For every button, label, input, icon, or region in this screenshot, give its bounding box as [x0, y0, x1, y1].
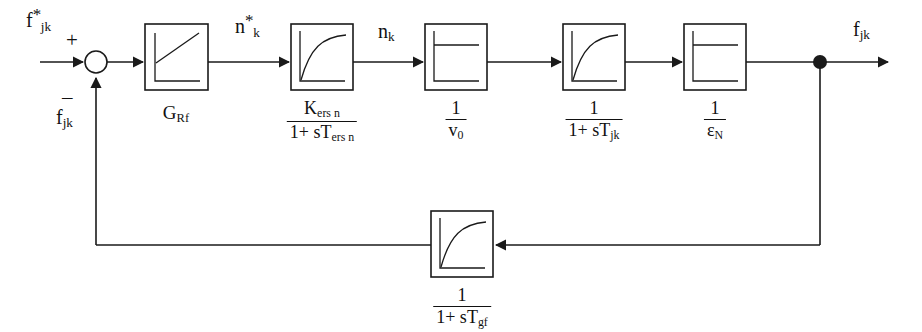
caption-feedback-1-stgf-numerator: 1: [433, 286, 491, 306]
label-feedback-signal: fjk: [56, 107, 73, 130]
caption-inv-1-stjk-numerator: 1: [566, 99, 623, 119]
block-inv-eps-n: [684, 24, 746, 90]
block-feedback-1-stgf: [431, 211, 493, 277]
block-kers-n: [291, 24, 353, 90]
caption-kers-n-denominator: 1+ sTers n: [287, 121, 357, 144]
caption-inv-eps-n-denominator: εN: [704, 119, 726, 142]
block-inv-v0: [425, 24, 487, 90]
label-output-signal: fjk: [853, 19, 870, 42]
summing-junction-circle: [85, 51, 107, 73]
takeoff-node-dot: [813, 55, 827, 69]
caption-inv-eps-n: 1 εN: [704, 99, 726, 142]
summing-plus-sign: +: [66, 30, 78, 51]
caption-inv-v0-denominator: v0: [446, 119, 467, 142]
block-inv-1-stjk: [563, 24, 625, 90]
caption-inv-v0-numerator: 1: [446, 99, 467, 119]
caption-feedback-1-stgf-denominator: 1+ sTgf: [433, 306, 491, 329]
label-intermediate-n-star-k: n*k: [235, 12, 260, 39]
caption-inv-1-stjk: 1 1+ sTjk: [566, 99, 623, 142]
block-diagram-canvas: f*jk + – fjk n*k nk fjk GRf Kers n 1+ sT…: [0, 0, 922, 332]
caption-g-rf: GRf: [163, 102, 189, 126]
label-intermediate-n-k: nk: [378, 21, 395, 44]
caption-feedback-1-stgf: 1 1+ sTgf: [433, 286, 491, 329]
caption-inv-1-stjk-denominator: 1+ sTjk: [566, 119, 623, 142]
caption-kers-n-numerator: Kers n: [287, 99, 357, 121]
block-g-rf: [145, 24, 208, 90]
caption-kers-n: Kers n 1+ sTers n: [287, 99, 357, 144]
caption-inv-eps-n-numerator: 1: [704, 99, 726, 119]
caption-inv-v0: 1 v0: [446, 99, 467, 142]
summing-minus-sign: –: [62, 87, 73, 108]
label-input-reference: f*jk: [26, 6, 51, 33]
diagram-wiring: [0, 0, 922, 332]
